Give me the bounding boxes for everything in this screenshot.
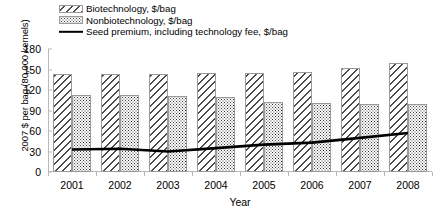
y-tick: 30 bbox=[29, 146, 48, 158]
chart-legend: Biotechnology, $/bagNonbiotechnology, $/… bbox=[59, 3, 288, 38]
x-tick: 2003 bbox=[156, 172, 179, 191]
x-tick-label: 2003 bbox=[156, 179, 179, 191]
y-tick: 60 bbox=[29, 125, 48, 137]
y-tick: 0 bbox=[35, 166, 48, 178]
y-tick-label: 180 bbox=[23, 43, 48, 55]
legend-swatch-biotech bbox=[59, 5, 83, 13]
x-tick: 2004 bbox=[204, 172, 227, 191]
x-tick-label: 2007 bbox=[348, 179, 371, 191]
x-tick-mark bbox=[192, 172, 193, 176]
line-series-path bbox=[72, 133, 408, 151]
y-tick: 180 bbox=[23, 43, 48, 55]
x-tick-label: 2005 bbox=[252, 179, 275, 191]
x-tick-label: 2001 bbox=[60, 179, 83, 191]
y-tick: 120 bbox=[23, 84, 48, 96]
legend-label: Biotechnology, $/bag bbox=[86, 3, 176, 15]
plot-area: 0306090120150180 20012002200320042005200… bbox=[48, 49, 432, 172]
x-tick: 2005 bbox=[252, 172, 275, 191]
x-axis-title: Year bbox=[48, 196, 432, 208]
x-tick-mark bbox=[336, 172, 337, 176]
y-tick-label: 30 bbox=[29, 146, 48, 158]
y-tick-label: 90 bbox=[29, 105, 48, 117]
x-tick-mark bbox=[240, 172, 241, 176]
x-tick-label: 2006 bbox=[300, 179, 323, 191]
seed-premium-line bbox=[48, 49, 432, 172]
x-tick-mark bbox=[432, 172, 433, 176]
legend-item: Seed premium, including technology fee, … bbox=[59, 26, 288, 38]
y-tick-label: 0 bbox=[35, 166, 48, 178]
legend-swatch-line bbox=[59, 28, 83, 36]
chart-figure: 2007 $ per bag (80,000 kernels) 03060901… bbox=[0, 0, 438, 220]
legend-item: Nonbiotechnology, $/bag bbox=[59, 15, 288, 27]
x-tick: 2006 bbox=[300, 172, 323, 191]
x-tick-label: 2008 bbox=[396, 179, 419, 191]
x-tick: 2008 bbox=[396, 172, 419, 191]
x-tick-mark bbox=[288, 172, 289, 176]
x-tick: 2001 bbox=[60, 172, 83, 191]
x-tick-label: 2004 bbox=[204, 179, 227, 191]
y-tick: 150 bbox=[23, 64, 48, 76]
x-tick-mark bbox=[384, 172, 385, 176]
y-tick-label: 60 bbox=[29, 125, 48, 137]
legend-swatch-nonbiotech bbox=[59, 16, 83, 24]
x-tick-mark bbox=[144, 172, 145, 176]
legend-label: Nonbiotechnology, $/bag bbox=[86, 15, 192, 27]
x-tick-label: 2002 bbox=[108, 179, 131, 191]
y-tick-label: 150 bbox=[23, 64, 48, 76]
y-tick-label: 120 bbox=[23, 84, 48, 96]
legend-item: Biotechnology, $/bag bbox=[59, 3, 288, 15]
x-tick-mark bbox=[48, 172, 49, 176]
x-tick: 2007 bbox=[348, 172, 371, 191]
legend-label: Seed premium, including technology fee, … bbox=[86, 26, 288, 38]
x-tick-mark bbox=[96, 172, 97, 176]
y-tick: 90 bbox=[29, 105, 48, 117]
x-tick: 2002 bbox=[108, 172, 131, 191]
